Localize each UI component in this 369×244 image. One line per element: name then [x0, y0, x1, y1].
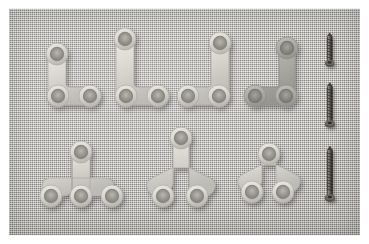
- screw-2: [325, 82, 335, 127]
- plate-5: [40, 141, 123, 207]
- woven-cloth-background: [9, 8, 360, 236]
- photograph: [0, 0, 369, 244]
- screw-1: [325, 32, 334, 66]
- plate-4: [244, 37, 298, 107]
- plate-1: [46, 43, 101, 107]
- hardware-layer: [9, 8, 360, 236]
- plate-6: [147, 127, 216, 207]
- screw-3: [325, 146, 335, 202]
- bone-plates-and-screws-svg: [9, 8, 360, 236]
- plate-7: [238, 143, 301, 203]
- plate-2: [114, 28, 169, 107]
- plate-3: [177, 32, 231, 107]
